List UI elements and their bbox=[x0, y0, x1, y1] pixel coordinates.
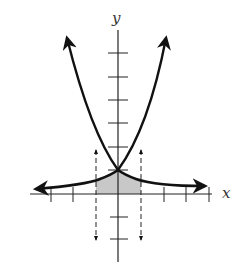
x-axis-label: x bbox=[222, 184, 231, 202]
steep-curve bbox=[67, 38, 166, 170]
y-axis-label: y bbox=[111, 9, 121, 27]
graph: y x bbox=[0, 0, 243, 276]
